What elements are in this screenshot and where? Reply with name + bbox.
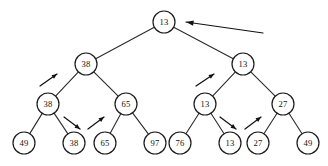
node-label: 76 bbox=[176, 138, 185, 148]
tree-edge bbox=[251, 72, 275, 96]
root-pointer-arrow-shaft bbox=[186, 22, 263, 33]
binary-tree-diagram: 133813386513274938659776132749 bbox=[0, 0, 328, 166]
swap-arrow-leaf65-up bbox=[88, 117, 104, 129]
tree-node-left[interactable]: 38 bbox=[75, 53, 97, 75]
tree-node-left-right[interactable]: 65 bbox=[115, 93, 137, 115]
node-label: 27 bbox=[254, 138, 263, 148]
tree-node-right-left[interactable]: 13 bbox=[194, 93, 216, 115]
tree-node-leaf-2[interactable]: 38 bbox=[63, 132, 85, 154]
node-label: 13 bbox=[160, 17, 169, 27]
tree-edge bbox=[54, 113, 68, 134]
tree-canvas: 133813386513274938659776132749 bbox=[0, 0, 328, 166]
tree-edge bbox=[213, 72, 236, 96]
tree-node-leaf-3[interactable]: 65 bbox=[94, 132, 116, 154]
tree-edge bbox=[174, 27, 234, 59]
tree-edge bbox=[211, 113, 224, 133]
tree-edge bbox=[30, 113, 42, 133]
root-pointer-arrow-head bbox=[186, 20, 194, 25]
node-label: 38 bbox=[82, 59, 91, 69]
tree-node-leaf-6[interactable]: 13 bbox=[219, 132, 241, 154]
swap-arrow-left-subtree-up bbox=[40, 74, 57, 86]
tree-node-right-right[interactable]: 27 bbox=[272, 93, 294, 115]
tree-edge bbox=[186, 113, 199, 133]
node-label: 49 bbox=[20, 138, 29, 148]
tree-edge bbox=[110, 114, 121, 134]
node-label: 49 bbox=[304, 138, 313, 148]
node-label: 97 bbox=[151, 138, 160, 148]
tree-edge bbox=[289, 113, 302, 133]
node-label: 13 bbox=[226, 138, 235, 148]
swap-arrow-left-subtree-up-head bbox=[51, 74, 57, 79]
root-pointer-arrow bbox=[186, 20, 263, 33]
tree-node-left-left[interactable]: 38 bbox=[37, 93, 59, 115]
tree-node-leaf-4[interactable]: 97 bbox=[144, 132, 166, 154]
tree-node-leaf-1[interactable]: 49 bbox=[13, 132, 35, 154]
node-label: 13 bbox=[201, 99, 210, 109]
tree-edge bbox=[94, 72, 118, 96]
node-label: 38 bbox=[44, 99, 53, 109]
tree-node-leaf-7[interactable]: 27 bbox=[247, 132, 269, 154]
node-label: 13 bbox=[239, 59, 248, 69]
node-label: 27 bbox=[279, 99, 288, 109]
edges-group bbox=[30, 27, 302, 134]
tree-node-leaf-5[interactable]: 76 bbox=[169, 132, 191, 154]
swap-arrow-right-subtree-up-head bbox=[208, 74, 214, 79]
tree-edge bbox=[133, 113, 149, 134]
swap-arrow-leaf27-up bbox=[245, 117, 261, 129]
node-label: 65 bbox=[122, 99, 131, 109]
tree-edge bbox=[96, 27, 155, 59]
swap-arrow-right-subtree-up bbox=[196, 74, 214, 86]
node-label: 65 bbox=[101, 138, 110, 148]
nodes-group: 133813386513274938659776132749 bbox=[13, 11, 319, 154]
swap-arrow-leaf13-down bbox=[220, 117, 236, 129]
tree-node-root[interactable]: 13 bbox=[153, 11, 175, 33]
arrows-group bbox=[40, 20, 263, 129]
swap-arrow-leaf38-down bbox=[64, 117, 80, 129]
tree-edge bbox=[264, 113, 277, 133]
tree-edge bbox=[56, 72, 79, 96]
tree-node-leaf-8[interactable]: 49 bbox=[297, 132, 319, 154]
node-label: 38 bbox=[70, 138, 79, 148]
tree-node-right[interactable]: 13 bbox=[232, 53, 254, 75]
